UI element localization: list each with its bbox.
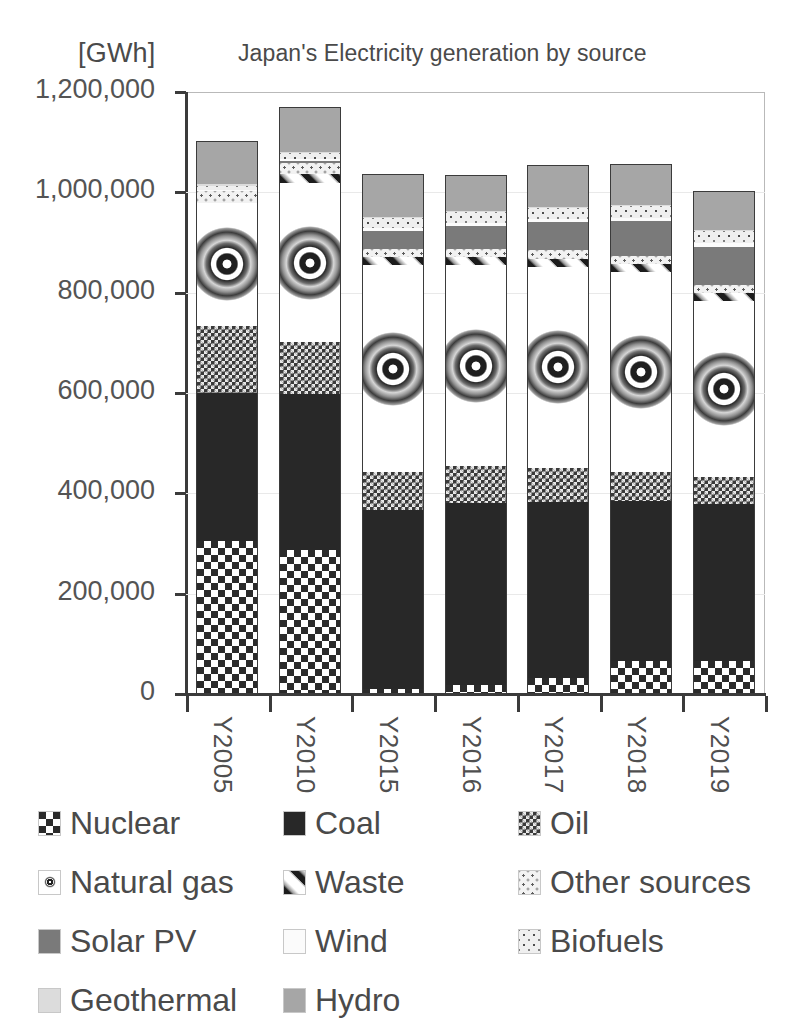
- x-tick-mark: [351, 696, 354, 712]
- y-tick-mark: [175, 593, 186, 596]
- bar-y2015[interactable]: [362, 174, 424, 694]
- legend-item-nuclear[interactable]: Nuclear: [38, 807, 283, 839]
- y-tick-label: 200,000: [57, 578, 155, 605]
- y-tick-mark: [175, 392, 186, 395]
- legend-item-biofuels[interactable]: Biofuels: [518, 925, 798, 957]
- segment-oil: [362, 472, 424, 510]
- bar-y2019[interactable]: [693, 191, 755, 694]
- segment-other-sources: [362, 249, 424, 258]
- x-tick-label-y2019: Y2019: [704, 716, 735, 794]
- legend-label: Waste: [315, 866, 405, 898]
- segment-waste: [279, 174, 341, 183]
- segment-coal: [279, 394, 341, 550]
- segment-biofuels: [693, 231, 755, 243]
- segment-solar-pv: [362, 231, 424, 249]
- legend-label: Wind: [315, 925, 388, 957]
- legend-item-hydro[interactable]: Hydro: [283, 984, 518, 1016]
- natural-gas-marker-icon: [693, 352, 755, 426]
- legend-item-natural-gas[interactable]: Natural gas: [38, 866, 283, 898]
- x-tick-label-y2018: Y2018: [621, 716, 652, 794]
- y-tick-label: 1,200,000: [35, 76, 155, 103]
- segment-waste: [693, 293, 755, 301]
- segment-other-sources: [445, 249, 507, 258]
- x-tick-mark: [269, 696, 272, 712]
- legend-swatch-solar-pv-icon: [38, 929, 61, 954]
- legend-label: Hydro: [315, 984, 400, 1016]
- segment-coal: [196, 393, 258, 541]
- segment-oil: [445, 466, 507, 503]
- segment-geothermal: [610, 205, 672, 206]
- x-tick-label-y2005: Y2005: [207, 716, 238, 794]
- segment-nuclear: [445, 685, 507, 694]
- natural-gas-marker-icon: [279, 226, 341, 300]
- x-tick-mark: [517, 696, 520, 712]
- bar-y2017[interactable]: [527, 165, 589, 694]
- natural-gas-marker-icon: [610, 335, 672, 409]
- segment-biofuels: [279, 153, 341, 159]
- legend-swatch-waste-icon: [283, 870, 306, 895]
- segment-geothermal: [279, 152, 341, 153]
- bar-y2016[interactable]: [445, 175, 507, 694]
- segment-waste: [445, 257, 507, 265]
- y-tick-mark: [175, 492, 186, 495]
- segment-hydro: [693, 191, 755, 230]
- natural-gas-marker-icon: [196, 227, 258, 301]
- segment-biofuels: [445, 212, 507, 223]
- x-tick-mark: [682, 696, 685, 712]
- segment-hydro: [196, 141, 258, 184]
- segment-geothermal: [196, 184, 258, 186]
- segment-coal: [693, 504, 755, 661]
- segment-coal: [445, 503, 507, 685]
- segment-other-sources: [279, 163, 341, 174]
- segment-oil: [279, 342, 341, 394]
- x-tick-mark: [434, 696, 437, 712]
- legend-item-other-sources[interactable]: Other sources: [518, 866, 798, 898]
- bar-y2010[interactable]: [279, 107, 341, 694]
- legend-item-oil[interactable]: Oil: [518, 807, 798, 839]
- segment-nuclear: [527, 678, 589, 694]
- legend-label: Oil: [550, 807, 589, 839]
- segment-coal: [610, 501, 672, 662]
- legend-item-geothermal[interactable]: Geothermal: [38, 984, 283, 1016]
- segment-solar-pv: [527, 222, 589, 250]
- segment-natural-gas: [279, 183, 341, 343]
- segment-wind: [527, 219, 589, 222]
- x-tick-label-y2010: Y2010: [290, 716, 321, 794]
- y-tick-label: 400,000: [57, 477, 155, 504]
- segment-waste: [527, 259, 589, 267]
- segment-nuclear: [196, 541, 258, 694]
- legend-swatch-other-sources-icon: [518, 870, 541, 895]
- legend-swatch-biofuels-icon: [518, 929, 541, 954]
- segment-waste: [362, 257, 424, 265]
- segment-wind: [693, 243, 755, 247]
- x-tick-label-y2015: Y2015: [373, 716, 404, 794]
- legend-label: Geothermal: [70, 984, 237, 1016]
- segment-natural-gas: [196, 203, 258, 326]
- segment-biofuels: [362, 218, 424, 228]
- segment-hydro: [445, 175, 507, 211]
- segment-other-sources: [196, 191, 258, 203]
- segment-nuclear: [693, 661, 755, 694]
- y-axis-unit-label: [GWh]: [78, 38, 156, 69]
- chart-legend: NuclearCoalOilNatural gasWasteOther sour…: [38, 800, 798, 1028]
- segment-other-sources: [527, 250, 589, 259]
- segment-wind: [196, 190, 258, 191]
- legend-item-coal[interactable]: Coal: [283, 807, 518, 839]
- bar-y2005[interactable]: [196, 141, 258, 694]
- y-tick-mark: [175, 292, 186, 295]
- legend-item-solar-pv[interactable]: Solar PV: [38, 925, 283, 957]
- segment-hydro: [610, 164, 672, 205]
- y-tick-label: 600,000: [57, 377, 155, 404]
- segment-wind: [610, 218, 672, 222]
- bar-y2018[interactable]: [610, 164, 672, 694]
- x-tick-label-y2016: Y2016: [456, 716, 487, 794]
- legend-row: GeothermalHydro: [38, 977, 798, 1023]
- legend-item-waste[interactable]: Waste: [283, 866, 518, 898]
- legend-swatch-coal-icon: [283, 811, 306, 836]
- legend-row: Natural gasWasteOther sources: [38, 859, 798, 905]
- segment-biofuels: [527, 208, 589, 219]
- natural-gas-marker-icon: [527, 330, 589, 404]
- legend-item-wind[interactable]: Wind: [283, 925, 518, 957]
- y-tick-label: 1,000,000: [35, 176, 155, 203]
- segment-oil: [610, 472, 672, 501]
